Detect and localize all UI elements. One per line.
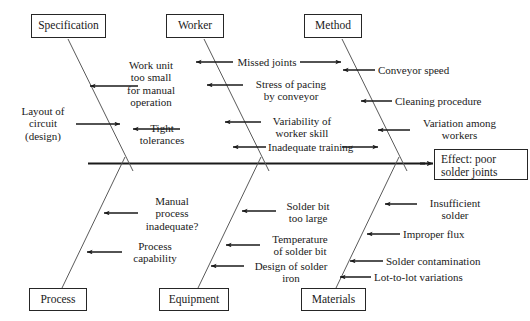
cause-line: by conveyor [245,90,337,102]
effect-box[interactable]: Effect: poor solder joints [434,149,528,180]
cause-line: Improper flux [403,228,493,240]
cause-line: process [136,207,208,219]
cause-solder-contamination: Solder contamination [386,255,516,267]
category-box-specification[interactable]: Specification [31,14,106,38]
cause-line: Layout of [12,105,74,117]
category-box-worker[interactable]: Worker [166,14,224,38]
cause-line: Manual [136,195,208,207]
cause-manual-process-inadequate: Manual process inadequate? [136,195,208,232]
cause-line: Solder bit [276,200,340,212]
category-box-process[interactable]: Process [29,288,87,311]
bone-materials [336,157,399,288]
cause-line: inadequate? [136,220,208,232]
cause-line: too small [118,71,184,83]
cause-missed-joints: Missed joints [235,56,299,68]
category-box-method[interactable]: Method [304,14,362,38]
category-label-specification: Specification [38,20,99,32]
category-label-process: Process [40,294,75,306]
cause-line: circuit [12,117,74,129]
cause-line: iron [245,272,337,284]
cause-line: capability [120,252,190,264]
cause-stress-of-pacing: Stress of pacing by conveyor [245,78,337,103]
cause-line: worker skill [263,127,341,139]
category-box-materials[interactable]: Materials [301,288,366,311]
bone-process [62,157,125,288]
cause-line: for manual [118,84,184,96]
category-label-equipment: Equipment [169,294,219,306]
cause-line: solder [419,209,491,221]
effect-label-line1: Effect: poor [441,153,522,166]
cause-variation-among-workers: Variation among workers [411,117,508,142]
cause-line: Tight [132,122,192,134]
cause-design-of-solder-iron: Design of solder iron [245,260,337,285]
cause-variability-of-worker-skill: Variability of worker skill [263,115,341,140]
cause-insufficient-solder: Insufficient solder [419,197,491,222]
cause-process-capability: Process capability [120,240,190,265]
cause-line: Solder contamination [386,255,516,267]
cause-line: Design of solder [245,260,337,272]
cause-line: Stress of pacing [245,78,337,90]
category-label-method: Method [315,20,351,32]
cause-line: Lot-to-lot variations [374,271,504,283]
category-box-equipment[interactable]: Equipment [159,288,229,311]
cause-lot-to-lot-variations: Lot-to-lot variations [374,271,504,283]
cause-tight-tolerances: Tight tolerances [132,122,192,147]
cause-line: Insufficient [419,197,491,209]
cause-solder-bit-too-large: Solder bit too large [276,200,340,225]
cause-line: Inadequate training [268,141,342,153]
cause-inadequate-training: Inadequate training [268,141,342,153]
fishbone-diagram: Specification Worker Method Process Equi… [0,0,530,321]
cause-line: operation [118,96,184,108]
cause-line: Process [120,240,190,252]
cause-temperature-of-solder-bit: Temperature of solder bit [260,233,340,258]
category-label-worker: Worker [178,20,212,32]
cause-improper-flux: Improper flux [403,228,493,240]
cause-line: Temperature [260,233,340,245]
cause-line: (design) [12,130,74,142]
cause-cleaning-procedure: Cleaning procedure [395,95,505,107]
cause-line: Work unit [118,59,184,71]
cause-line: Cleaning procedure [395,95,505,107]
cause-line: of solder bit [260,245,340,257]
category-label-materials: Materials [312,294,355,306]
cause-line: workers [411,129,508,141]
cause-work-unit-too-small: Work unit too small for manual operation [118,59,184,108]
effect-label-line2: solder joints [441,166,522,179]
cause-line: Variation among [411,117,508,129]
cause-conveyor-speed: Conveyor speed [378,64,478,76]
cause-line: too large [276,212,340,224]
cause-line: Conveyor speed [378,64,478,76]
cause-line: tolerances [132,134,192,146]
cause-layout-of-circuit: Layout of circuit (design) [12,105,74,142]
cause-line: Missed joints [235,56,299,68]
cause-line: Variability of [263,115,341,127]
